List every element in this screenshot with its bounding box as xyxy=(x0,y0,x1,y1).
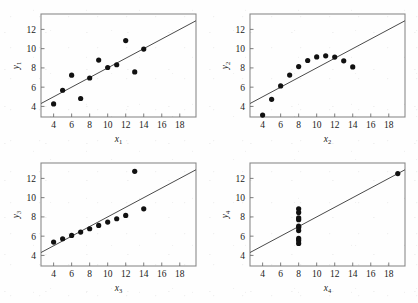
data-point xyxy=(132,169,137,174)
data-point xyxy=(350,64,355,69)
x-axis-label: x1 xyxy=(114,134,122,145)
y-tick-label: 8 xyxy=(31,212,36,222)
x-tick-label: 16 xyxy=(366,269,376,279)
y-tick-label: 10 xyxy=(27,193,37,203)
x-tick-label: 16 xyxy=(366,120,376,130)
x-tick-label: 6 xyxy=(278,120,283,130)
x-tick-label: 12 xyxy=(330,269,340,279)
x-tick-label: 8 xyxy=(296,269,301,279)
x-tick-label: 10 xyxy=(103,120,113,130)
y-tick-label: 4 xyxy=(240,251,245,261)
x-axis-label: x2 xyxy=(323,134,331,145)
data-point xyxy=(332,54,337,59)
data-point xyxy=(69,73,74,78)
y-tick-label: 10 xyxy=(27,44,37,54)
x-tick-label: 12 xyxy=(121,120,131,130)
data-point xyxy=(287,72,292,77)
data-point xyxy=(96,58,101,63)
data-point xyxy=(296,225,301,230)
y-axis-label: y2 xyxy=(220,62,231,70)
y-tick-label: 4 xyxy=(31,102,36,112)
y-tick-label: 12 xyxy=(27,25,37,35)
data-point xyxy=(141,206,146,211)
plot-frame xyxy=(41,163,196,266)
data-point xyxy=(296,215,301,220)
x-tick-label: 14 xyxy=(139,269,149,279)
data-point xyxy=(78,230,83,235)
y-tick-label: 8 xyxy=(31,63,36,73)
data-point xyxy=(60,236,65,241)
x-tick-label: 14 xyxy=(139,120,149,130)
x-tick-label: 10 xyxy=(312,120,322,130)
x-tick-label: 6 xyxy=(278,269,283,279)
data-point xyxy=(123,38,128,43)
data-point xyxy=(296,64,301,69)
y-axis-label: y1 xyxy=(11,62,22,70)
x-tick-label: 6 xyxy=(69,269,74,279)
data-point xyxy=(341,58,346,63)
y-tick-label: 12 xyxy=(236,174,246,184)
x-tick-label: 14 xyxy=(348,120,358,130)
panel-1: 46810121416184681012x1y1 xyxy=(0,0,209,152)
y-tick-label: 6 xyxy=(31,83,36,93)
x-tick-label: 10 xyxy=(312,269,322,279)
data-point xyxy=(269,97,274,102)
data-point xyxy=(87,226,92,231)
x-tick-label: 4 xyxy=(51,120,56,130)
x-axis-label: x3 xyxy=(114,283,122,294)
panel-3: 46810121416184681012x3y3 xyxy=(0,152,209,303)
x-tick-label: 18 xyxy=(175,269,185,279)
x-tick-label: 12 xyxy=(121,269,131,279)
x-tick-label: 12 xyxy=(330,120,340,130)
data-point xyxy=(105,220,110,225)
x-tick-label: 8 xyxy=(296,120,301,130)
x-tick-label: 4 xyxy=(260,120,265,130)
data-point xyxy=(51,239,56,244)
y-tick-label: 6 xyxy=(240,83,245,93)
data-point xyxy=(105,65,110,70)
y-tick-label: 6 xyxy=(31,232,36,242)
data-point xyxy=(96,223,101,228)
data-point xyxy=(132,69,137,74)
data-point xyxy=(60,88,65,93)
y-tick-label: 12 xyxy=(236,25,246,35)
data-point xyxy=(114,216,119,221)
x-tick-label: 8 xyxy=(87,120,92,130)
y-tick-label: 10 xyxy=(236,193,246,203)
x-tick-label: 18 xyxy=(175,120,185,130)
data-point xyxy=(296,210,301,215)
data-point xyxy=(114,62,119,67)
y-tick-label: 10 xyxy=(236,44,246,54)
data-point xyxy=(78,96,83,101)
x-tick-label: 14 xyxy=(348,269,358,279)
y-tick-label: 12 xyxy=(27,174,37,184)
x-tick-label: 18 xyxy=(384,269,394,279)
x-tick-label: 4 xyxy=(51,269,56,279)
regression-line xyxy=(250,21,405,104)
y-tick-label: 6 xyxy=(240,232,245,242)
panel-4: 46810121416184681012x4y4 xyxy=(209,152,418,303)
data-point xyxy=(395,171,400,176)
y-tick-label: 8 xyxy=(240,63,245,73)
data-point xyxy=(305,58,310,63)
y-tick-label: 4 xyxy=(240,102,245,112)
data-point xyxy=(141,46,146,51)
data-point xyxy=(51,101,56,106)
y-tick-label: 8 xyxy=(240,212,245,222)
plot-frame xyxy=(250,163,405,266)
x-tick-label: 8 xyxy=(87,269,92,279)
y-tick-label: 4 xyxy=(31,251,36,261)
y-axis-label: y4 xyxy=(220,210,231,219)
data-point xyxy=(87,75,92,80)
data-point xyxy=(296,238,301,243)
x-tick-label: 18 xyxy=(384,120,394,130)
data-point xyxy=(260,112,265,117)
x-tick-label: 10 xyxy=(103,269,113,279)
data-point xyxy=(278,83,283,88)
data-point xyxy=(69,233,74,238)
data-point xyxy=(323,53,328,58)
quartet-figure: 46810121416184681012x1y1 468101214161846… xyxy=(0,0,418,303)
regression-line xyxy=(250,170,405,253)
panel-2: 46810121416184681012x2y2 xyxy=(209,0,418,152)
x-axis-label: x4 xyxy=(323,283,332,294)
